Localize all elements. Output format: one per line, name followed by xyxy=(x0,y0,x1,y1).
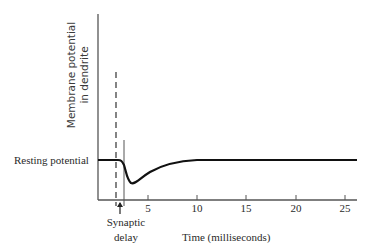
x-axis-label: Time (milliseconds) xyxy=(182,231,271,244)
x-tick-label-25: 25 xyxy=(340,202,352,214)
y-axis-label-line2: in dendrite xyxy=(78,46,90,103)
membrane-potential-chart: Membrane potential in dendrite Resting p… xyxy=(0,0,371,248)
resting-potential-label: Resting potential xyxy=(14,154,89,166)
x-tick-label-10: 10 xyxy=(192,202,204,214)
synaptic-delay-label-line2: delay xyxy=(114,231,138,243)
synaptic-delay-label-line1: Synaptic xyxy=(107,216,146,228)
x-tick-label-5: 5 xyxy=(145,202,151,214)
y-axis-label-line1: Membrane potential xyxy=(65,22,77,128)
x-tick-label-15: 15 xyxy=(241,202,253,214)
x-tick-label-20: 20 xyxy=(291,202,303,214)
synaptic-delay-arrow-icon xyxy=(117,202,123,214)
membrane-potential-curve xyxy=(98,160,357,183)
